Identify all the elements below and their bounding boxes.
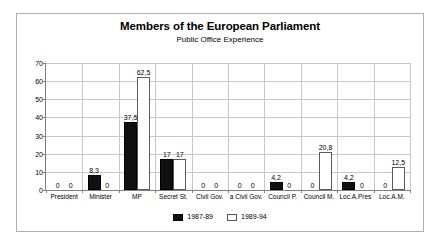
bar-group: 00 [228, 63, 264, 190]
bar-slot: 4,2 [342, 63, 355, 190]
y-axis-tick-label: 10 [35, 168, 43, 175]
bar-slot: 0 [64, 63, 77, 190]
bar-value-label: 37,5 [124, 114, 138, 122]
x-axis-tick-mark [264, 190, 265, 193]
x-axis-category-label: Council M. [304, 193, 335, 201]
chart-legend: 1987-891989-94 [17, 213, 423, 221]
bar-group: 37,562,5 [119, 63, 155, 190]
bar-group: 4,20 [264, 63, 300, 190]
bar-value-label: 8,3 [89, 167, 99, 175]
category-group: 1717Secret St. [155, 63, 191, 190]
bar-slot: 0 [51, 63, 64, 190]
y-axis-tick-label: 30 [35, 132, 43, 139]
bar-series-1989-94 [137, 77, 150, 190]
category-group: 012,5Loc.A.M. [374, 63, 410, 190]
x-axis-category-label: Council P. [268, 193, 297, 201]
y-axis-tick-label: 60 [35, 78, 43, 85]
bar-series-1987-89 [88, 175, 101, 190]
bar-slot: 20,8 [319, 63, 332, 190]
bar-slot: 37,5 [124, 63, 137, 190]
legend-label: 1989-94 [241, 213, 267, 221]
bar-value-label: 0 [105, 182, 109, 190]
bar-slot: 0 [233, 63, 246, 190]
bar-group: 020,8 [301, 63, 337, 190]
legend-swatch [173, 214, 183, 221]
category-group: 4,20Council P. [264, 63, 300, 190]
x-axis-category-label: Secret St. [159, 193, 188, 201]
bar-series-1987-89 [124, 122, 137, 190]
bar-slot: 0 [355, 63, 368, 190]
bar-value-label: 0 [56, 182, 60, 190]
x-axis-tick-mark [82, 190, 83, 193]
bar-value-label: 20,8 [319, 144, 333, 152]
bar-value-label: 0 [383, 182, 387, 190]
chart-title: Members of the European Parliament [17, 19, 423, 33]
bar-series-1989-94 [392, 167, 405, 190]
bar-value-label: 0 [214, 182, 218, 190]
bar-value-label: 0 [69, 182, 73, 190]
x-axis-tick-mark [410, 190, 411, 193]
x-axis-tick-mark [374, 190, 375, 193]
bar-slot: 0 [379, 63, 392, 190]
legend-entry[interactable]: 1989-94 [227, 213, 267, 221]
bar-slot: 0 [210, 63, 223, 190]
x-axis-category-label: Minister [89, 193, 112, 201]
bar-slot: 0 [246, 63, 259, 190]
y-axis-tick-label: 40 [35, 114, 43, 121]
bar-slot: 0 [306, 63, 319, 190]
bar-value-label: 0 [251, 182, 255, 190]
bar-value-label: 0 [360, 182, 364, 190]
legend-label: 1987-89 [187, 213, 213, 221]
bar-series-1987-89 [270, 182, 283, 190]
bar-value-label: 4,2 [271, 174, 281, 182]
bar-series-1987-89 [342, 182, 355, 190]
bar-slot: 62,5 [137, 63, 150, 190]
bar-value-label: 0 [311, 182, 315, 190]
bar-series-1989-94 [173, 159, 186, 190]
plot-area: 01020304050607000President8,30Minister37… [45, 63, 410, 191]
chart-subtitle: Public Office Experience [17, 34, 423, 45]
bar-slot: 8,3 [88, 63, 101, 190]
bar-value-label: 62,5 [137, 69, 151, 77]
x-axis-tick-mark [46, 190, 47, 193]
x-axis-tick-mark [155, 190, 156, 193]
x-axis-tick-mark [301, 190, 302, 193]
title-block: Members of the European Parliament Publi… [17, 19, 423, 45]
bar-value-label: 17 [176, 151, 184, 159]
x-axis-category-label: President [50, 193, 77, 201]
category-group: 00President [46, 63, 82, 190]
bar-value-label: 4,2 [344, 174, 354, 182]
bar-series-1987-89 [160, 159, 173, 190]
legend-entry[interactable]: 1987-89 [173, 213, 213, 221]
chart-frame: Members of the European Parliament Publi… [16, 13, 424, 232]
y-axis-tick-label: 0 [39, 187, 43, 194]
bar-value-label: 0 [287, 182, 291, 190]
x-axis-tick-mark [119, 190, 120, 193]
y-axis-tick-label: 20 [35, 150, 43, 157]
category-group: 020,8Council M. [301, 63, 337, 190]
bar-slot: 0 [197, 63, 210, 190]
bar-value-label: 0 [238, 182, 242, 190]
x-axis-tick-mark [337, 190, 338, 193]
bar-group: 00 [192, 63, 228, 190]
category-group: 37,562,5MP [119, 63, 155, 190]
bar-group: 00 [46, 63, 82, 190]
bar-group: 4,20 [337, 63, 373, 190]
category-group: 8,30Minister [82, 63, 118, 190]
bar-slot: 12,5 [392, 63, 405, 190]
bar-slot: 0 [101, 63, 114, 190]
bar-slot: 0 [283, 63, 296, 190]
bar-series-1989-94 [319, 152, 332, 190]
y-axis-tick-label: 50 [35, 96, 43, 103]
bar-group: 1717 [155, 63, 191, 190]
bar-value-label: 12,5 [391, 159, 405, 167]
bar-slot: 4,2 [270, 63, 283, 190]
category-group: 4,20Loc.A.Pres [337, 63, 373, 190]
bar-group: 8,30 [82, 63, 118, 190]
x-axis-category-label: a Civil Gov. [230, 193, 263, 201]
bar-slot: 17 [173, 63, 186, 190]
x-axis-category-label: Loc.A.Pres [339, 193, 371, 201]
x-axis-tick-mark [192, 190, 193, 193]
bar-value-label: 17 [163, 151, 171, 159]
x-axis-category-label: Civil Gov. [196, 193, 223, 201]
